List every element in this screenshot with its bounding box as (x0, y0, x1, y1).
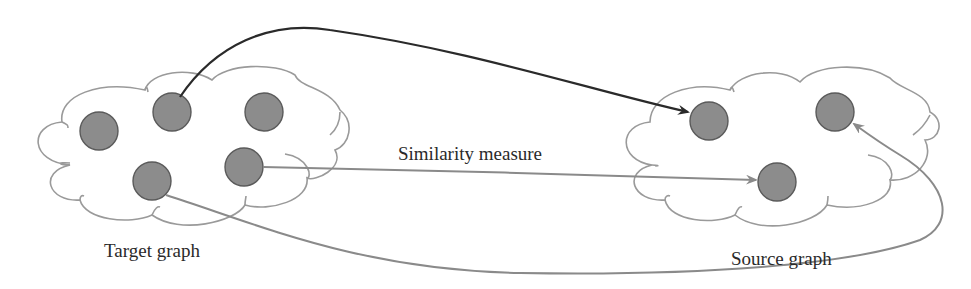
target-graph-label: Target graph (104, 240, 200, 261)
target-node-4 (133, 162, 171, 200)
target-node-1 (80, 112, 118, 150)
target-node-5 (225, 148, 263, 186)
similarity-measure-label: Similarity measure (398, 143, 542, 164)
source-node-3 (758, 163, 796, 201)
graph-mapping-diagram: Similarity measure Target graph Source g… (0, 0, 971, 289)
source-graph-label: Source graph (731, 248, 832, 269)
target-node-3 (245, 93, 283, 131)
source-node-1 (690, 102, 728, 140)
source-graph-cloud (626, 67, 939, 226)
target-graph-cloud (38, 66, 349, 225)
target-node-2 (153, 93, 191, 131)
source-node-2 (816, 93, 854, 131)
